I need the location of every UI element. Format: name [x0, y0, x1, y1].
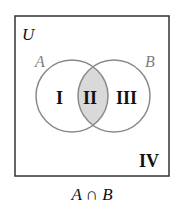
region-iv: IV [139, 151, 159, 171]
set-a-label: A [34, 53, 45, 70]
universe-label: U [22, 25, 36, 44]
region-ii: II [83, 88, 97, 108]
region-iii: III [116, 88, 137, 108]
set-b-label: B [145, 53, 155, 70]
venn-diagram: U A B I II III IV A ∩ B [0, 0, 183, 214]
region-i: I [56, 88, 63, 108]
caption: A ∩ B [70, 185, 113, 204]
